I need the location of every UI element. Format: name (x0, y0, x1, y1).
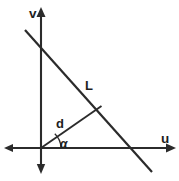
line-L-label: L (85, 78, 93, 93)
u-axis-label: u (161, 131, 169, 146)
angle-alpha-label: α (60, 137, 68, 151)
line-normal-form-figure: v u L d α (0, 0, 179, 181)
distance-d-label: d (56, 116, 64, 131)
v-axis-label: v (29, 6, 37, 21)
diagram-canvas: v u L d α (0, 0, 179, 181)
